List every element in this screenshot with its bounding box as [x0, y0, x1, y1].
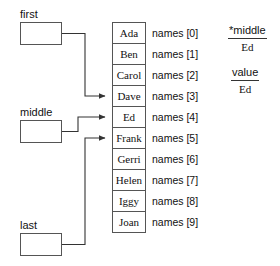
annotation-expression: *middle — [228, 24, 267, 39]
array-cell: Iggy — [113, 191, 145, 212]
array-index-label: names [4] — [152, 106, 198, 127]
array-cell: Ed — [113, 107, 145, 128]
array-index-label: names [1] — [152, 43, 198, 64]
array-index-label: names [3] — [152, 85, 198, 106]
array-cell: Ben — [113, 44, 145, 65]
pointer-box-first — [20, 22, 62, 45]
array-index-label: names [2] — [152, 64, 198, 85]
array-index-label: names [9] — [152, 211, 198, 232]
array-cell: Joan — [113, 212, 145, 233]
pointer-box-last — [20, 233, 62, 256]
array-index-label: names [0] — [152, 22, 198, 43]
array-cell: Carol — [113, 65, 145, 86]
pointer-box-middle — [20, 120, 62, 143]
array-cell: Gerri — [113, 149, 145, 170]
annotation-result: Ed — [228, 39, 267, 54]
pointer-label-middle: middle — [20, 106, 52, 118]
array-cell: Helen — [113, 170, 145, 191]
annotation-result: Ed — [231, 81, 259, 96]
annotation-expression: value — [231, 66, 259, 81]
array-index-labels: names [0] names [1] names [2] names [3] … — [152, 22, 198, 232]
array-cell: Ada — [113, 23, 145, 44]
array-index-label: names [8] — [152, 190, 198, 211]
annotation-value: value Ed — [231, 66, 259, 96]
array-index-label: names [5] — [152, 127, 198, 148]
array-cell: Frank — [113, 128, 145, 149]
array-index-label: names [7] — [152, 169, 198, 190]
array-index-label: names [6] — [152, 148, 198, 169]
array-cell: Dave — [113, 86, 145, 107]
wire-last-to-frank — [41, 138, 105, 245]
annotation-deref-middle: *middle Ed — [228, 24, 267, 54]
pointer-array-diagram: first middle last Ada Ben Carol Dave Ed … — [0, 0, 280, 266]
array-names: Ada Ben Carol Dave Ed Frank Gerri Helen … — [112, 22, 146, 233]
pointer-label-last: last — [20, 219, 37, 231]
pointer-label-first: first — [20, 8, 38, 20]
